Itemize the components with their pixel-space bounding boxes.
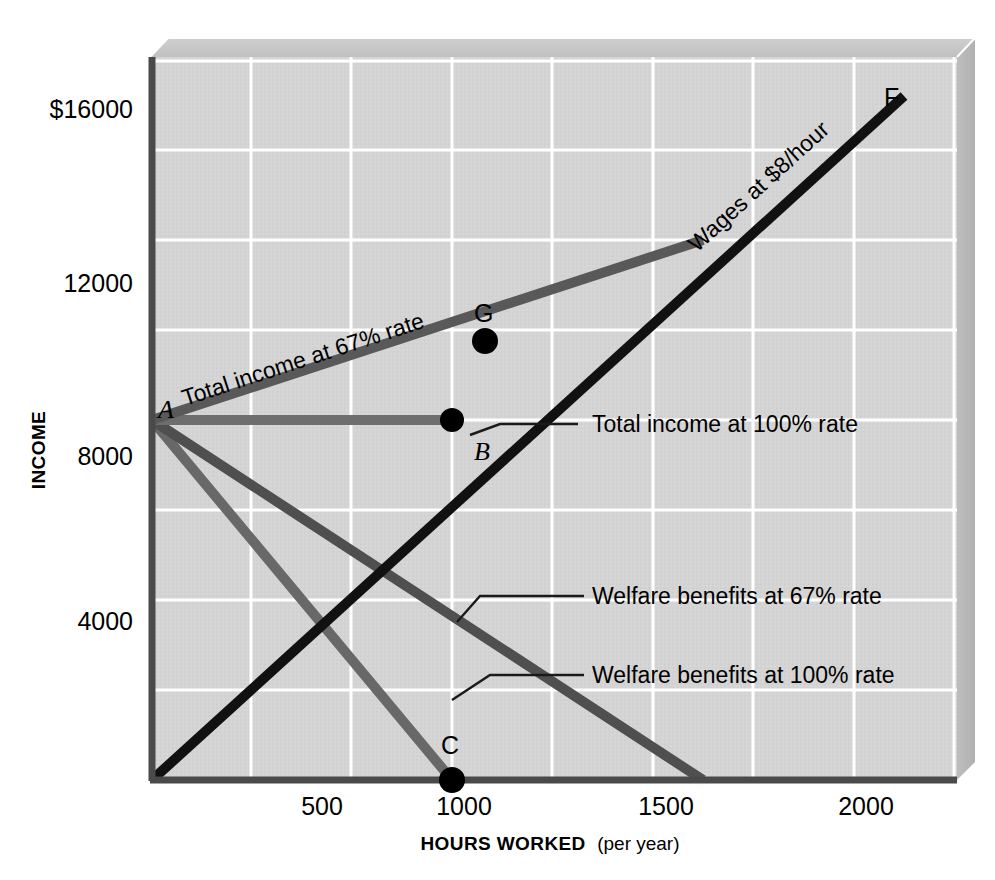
point-label-a: A [156, 395, 174, 424]
x-tick-1000: 1000 [436, 792, 492, 820]
x-axis-title-bold: HOURS WORKED [420, 833, 585, 854]
x-tick-2000: 2000 [838, 792, 894, 820]
y-tick-16000: $16000 [50, 95, 133, 123]
x-axis-title-normal: (per year) [597, 833, 679, 854]
marker-point-c [439, 767, 465, 793]
chart-right-bevel [957, 38, 975, 780]
y-tick-4000: 4000 [77, 607, 133, 635]
x-axis-title: HOURS WORKED (per year) [420, 833, 679, 854]
callout-welfare-100: Welfare benefits at 100% rate [592, 662, 895, 688]
welfare-income-chart: $16000 12000 8000 4000 INCOME 500 1000 1… [0, 0, 995, 880]
callout-welfare-67: Welfare benefits at 67% rate [592, 583, 882, 609]
point-label-g: G [474, 299, 493, 327]
y-tick-12000: 12000 [63, 269, 133, 297]
point-label-b: B [474, 437, 490, 466]
point-label-f: F [884, 83, 899, 111]
marker-point-b [440, 408, 464, 432]
chart-top-bevel [150, 38, 975, 57]
marker-point-g [472, 328, 498, 354]
chart-canvas: $16000 12000 8000 4000 INCOME 500 1000 1… [0, 0, 995, 880]
callout-total-income-100: Total income at 100% rate [592, 411, 858, 437]
point-label-c: C [441, 731, 459, 759]
x-tick-1500: 1500 [638, 792, 694, 820]
x-tick-500: 500 [301, 792, 343, 820]
y-axis-title: INCOME [28, 411, 49, 489]
y-tick-8000: 8000 [77, 442, 133, 470]
